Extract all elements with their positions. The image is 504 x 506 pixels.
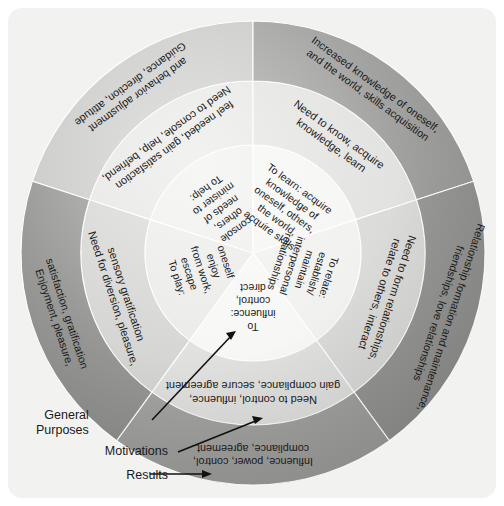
- label-influence-middle: Need to control, influence,gain complian…: [166, 380, 340, 405]
- svg-text:control,: control,: [236, 295, 270, 307]
- legend-label-general-purposes: General Purposes: [36, 408, 89, 438]
- svg-text:influence:: influence:: [231, 308, 276, 320]
- svg-text:compliance, agreement: compliance, agreement: [197, 443, 309, 455]
- sector-layer: [21, 21, 485, 485]
- legend-label-motivations: Motivations: [36, 444, 168, 459]
- svg-text:Need to control, influence,: Need to control, influence,: [189, 394, 317, 406]
- legend-label-results: Results: [36, 468, 168, 483]
- label-influence-outer: Influence, power, control,compliance, ag…: [193, 443, 313, 468]
- svg-text:To: To: [247, 321, 258, 333]
- svg-text:gain compliance, secure agreem: gain compliance, secure agreement: [166, 380, 340, 392]
- svg-text:direct: direct: [240, 282, 266, 294]
- svg-text:Influence, power, control,: Influence, power, control,: [193, 456, 313, 468]
